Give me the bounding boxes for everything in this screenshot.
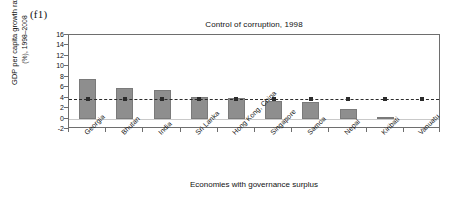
y-axis-tick-label: 14 bbox=[56, 41, 64, 48]
bar bbox=[302, 102, 319, 119]
bar bbox=[340, 109, 357, 118]
y-axis-tick-label: 16 bbox=[56, 31, 64, 38]
x-axis-title: Economies with governance surplus bbox=[68, 180, 440, 189]
y-axis: 1614121086420-2 bbox=[0, 34, 68, 128]
reference-marker bbox=[420, 97, 424, 101]
bar bbox=[154, 90, 171, 119]
reference-marker bbox=[123, 97, 127, 101]
reference-marker bbox=[346, 97, 350, 101]
reference-marker bbox=[309, 97, 313, 101]
y-axis-tick-label: 10 bbox=[56, 62, 64, 69]
figure-root: (f1) Control of corruption, 1998 GDP per… bbox=[0, 0, 464, 203]
reference-marker bbox=[160, 97, 164, 101]
x-axis-labels: GeorgiaBhutanIndiaSri LankaHong Kong, Ch… bbox=[68, 131, 440, 177]
zero-line bbox=[69, 119, 439, 120]
panel-label: (f1) bbox=[30, 8, 47, 20]
bar bbox=[116, 88, 133, 118]
reference-marker bbox=[383, 97, 387, 101]
reference-marker bbox=[86, 97, 90, 101]
reference-marker bbox=[197, 97, 201, 101]
chart-title: Control of corruption, 1998 bbox=[68, 20, 440, 29]
y-axis-tick-label: 12 bbox=[56, 51, 64, 58]
reference-marker bbox=[234, 97, 238, 101]
